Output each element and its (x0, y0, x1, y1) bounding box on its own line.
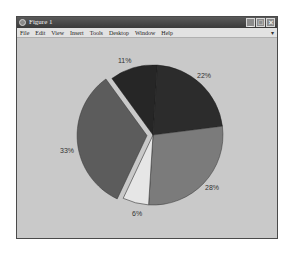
pie-slice-28[interactable] (149, 126, 223, 205)
label-33: 33% (60, 147, 74, 154)
label-6: 6% (132, 210, 142, 217)
pie-slice-22[interactable] (153, 65, 222, 135)
label-11: 11% (118, 57, 132, 64)
label-22: 22% (197, 72, 211, 79)
label-28: 28% (205, 184, 219, 191)
pie-chart: 11% 22% 28% 6% 33% (0, 0, 292, 256)
